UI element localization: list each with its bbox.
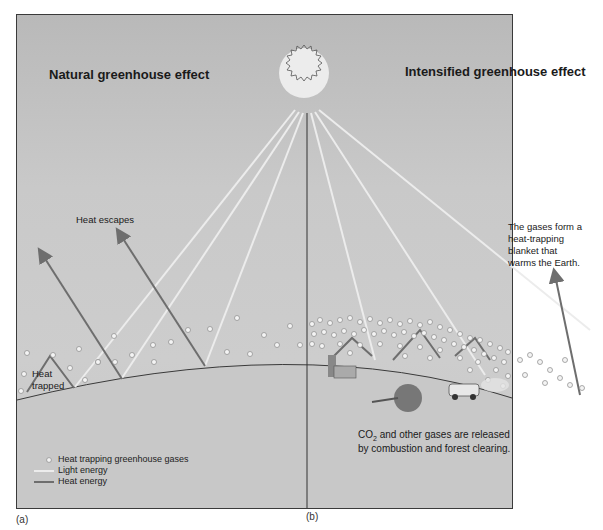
blanket-note-2: heat-trapping [508,233,564,245]
co2-note-line2: by combustion and forest clearing. [358,443,510,455]
factory-icon [328,355,356,378]
legend-heat-label: Heat energy [58,476,107,486]
sun-icon [279,45,329,98]
heat-trapped-label-2: trapped [32,380,64,392]
panel-b-title: Intensified greenhouse effect [405,64,586,79]
blanket-note-4: warms the Earth. [508,257,580,269]
heat-trapped-label-1: Heat [32,368,52,380]
blanket-note-3: blanket that [508,245,557,257]
panel-a-title: Natural greenhouse effect [49,67,209,82]
blanket-note-1: The gases form a [508,221,582,233]
caption-b: (b) [306,511,318,522]
caption-a: (a) [16,514,28,525]
legend-light-label: Light energy [58,465,108,475]
legend-gas-icon [47,458,52,463]
legend-gas-label: Heat trapping greenhouse gases [58,454,189,464]
heat-escapes-label: Heat escapes [76,214,134,226]
